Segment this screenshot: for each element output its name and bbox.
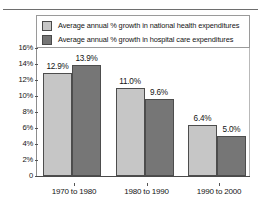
x-axis-label: 1990 to 2000 — [187, 186, 251, 197]
bar-value-label: 6.4% — [187, 114, 218, 123]
bar-group: 6.4%5.0% — [188, 48, 250, 176]
y-axis-tick: 10% — [18, 91, 37, 101]
y-axis-tick: 4% — [22, 139, 37, 149]
top-divider-rule — [3, 9, 258, 10]
bar-value-label: 11.0% — [115, 77, 146, 86]
y-axis-tick: 14% — [18, 59, 37, 69]
bar-value-label: 13.9% — [71, 54, 102, 63]
bar-value-label: 9.6% — [144, 88, 175, 97]
legend-swatch-dark-icon — [42, 35, 52, 45]
y-axis-tick: 16% — [18, 43, 37, 53]
bar-group: 11.0%9.6% — [116, 48, 178, 176]
legend-label-hospital-care: Average annual % growth in hospital care… — [58, 35, 233, 44]
bar-value-label: 5.0% — [216, 125, 247, 134]
y-axis-tick-label: 10% — [18, 91, 35, 101]
y-axis-tick-label: 16% — [18, 43, 35, 53]
legend-item-national-health: Average annual % growth in national heal… — [42, 19, 249, 32]
y-axis-tick-label: 2% — [22, 155, 35, 165]
bar-national-health[interactable] — [43, 73, 72, 176]
x-axis-label: 1970 to 1980 — [42, 186, 106, 197]
bar-national-health[interactable] — [188, 125, 217, 176]
legend-item-hospital-care: Average annual % growth in hospital care… — [42, 33, 249, 46]
plot-bars-area: 12.9%13.9%11.0%9.6%6.4%5.0% — [37, 48, 250, 176]
y-axis-tick: 6% — [22, 123, 37, 133]
bar-chart-figure: Average annual % growth in national heal… — [0, 11, 261, 208]
bar-hospital-care[interactable] — [145, 99, 174, 176]
y-axis-tick: 8% — [22, 107, 37, 117]
bar-national-health[interactable] — [116, 88, 145, 176]
x-axis-labels: 1970 to 19801980 to 19901990 to 2000 — [37, 183, 250, 197]
bar-hospital-care[interactable] — [217, 136, 246, 176]
chart-legend: Average annual % growth in national heal… — [36, 15, 250, 48]
legend-label-national-health: Average annual % growth in national heal… — [58, 21, 239, 30]
legend-swatch-light-icon — [42, 21, 52, 31]
bar-value-label: 12.9% — [42, 62, 73, 71]
y-axis-tick-label: 14% — [18, 59, 35, 69]
bar-group: 12.9%13.9% — [43, 48, 105, 176]
y-axis-tick-label: 12% — [18, 75, 35, 85]
y-axis-tick: 2% — [22, 155, 37, 165]
y-axis-tick: 12% — [18, 75, 37, 85]
y-axis-tick-label: 4% — [22, 139, 35, 149]
y-axis-tick-label: 6% — [22, 123, 35, 133]
x-axis-label: 1980 to 1990 — [115, 186, 179, 197]
y-axis: 02%4%6%8%10%12%14%16% — [0, 48, 37, 176]
x-axis-baseline — [36, 176, 250, 177]
bar-hospital-care[interactable] — [72, 65, 101, 176]
y-axis-tick-label: 8% — [22, 107, 35, 117]
